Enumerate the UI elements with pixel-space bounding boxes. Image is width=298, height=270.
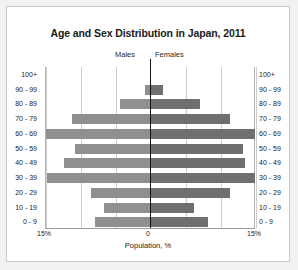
bar-female bbox=[151, 114, 230, 124]
bar-female bbox=[151, 144, 243, 154]
bar-male bbox=[75, 144, 151, 154]
chart-figure: Age and Sex Distribution in Japan, 2011 … bbox=[6, 6, 290, 262]
bar-male bbox=[95, 217, 151, 227]
bar-female bbox=[151, 173, 255, 183]
age-label-right: 0 - 9 bbox=[259, 214, 273, 230]
zero-axis-line bbox=[150, 59, 151, 228]
bar-female bbox=[151, 99, 200, 109]
x-axis-title: Population, % bbox=[7, 241, 289, 250]
bar-male bbox=[91, 188, 151, 198]
bar-female bbox=[151, 158, 245, 168]
legend-label-males: Males bbox=[115, 50, 135, 59]
bar-female bbox=[151, 129, 255, 139]
xtick-right: 15% bbox=[247, 230, 261, 237]
plot-area bbox=[45, 67, 255, 229]
bar-female bbox=[151, 203, 194, 213]
bar-male bbox=[120, 99, 151, 109]
age-label-left: 0 - 9 bbox=[23, 214, 37, 230]
bar-male bbox=[104, 203, 151, 213]
bar-male bbox=[47, 173, 151, 183]
bar-male bbox=[64, 158, 152, 168]
page-title: Age and Sex Distribution in Japan, 2011 bbox=[7, 27, 289, 39]
bar-female bbox=[151, 188, 230, 198]
bar-female bbox=[151, 85, 163, 95]
bar-female bbox=[151, 217, 208, 227]
gridline bbox=[256, 67, 257, 228]
bar-male bbox=[72, 114, 151, 124]
legend-label-females: Females bbox=[155, 50, 184, 59]
bar-male bbox=[46, 129, 151, 139]
series-legend: Males Females bbox=[7, 50, 289, 62]
